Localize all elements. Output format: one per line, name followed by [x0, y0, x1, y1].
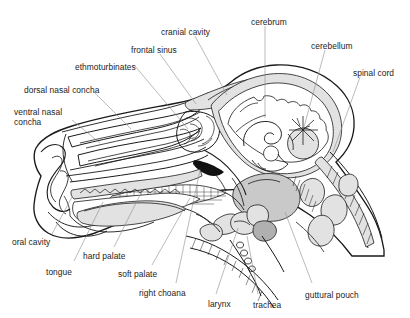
leader-ethmoturbinates [135, 66, 188, 129]
cervical-vertebrae-group [300, 174, 358, 246]
leader-guttural-pouch [285, 212, 312, 283]
trachea-wall-anterior [230, 240, 261, 296]
label-cerebrum: cerebrum [251, 17, 287, 27]
trachea-wall-posterior [262, 236, 284, 272]
label-larynx: larynx [208, 299, 231, 309]
label-guttural-pouch: guttural pouch [305, 290, 359, 300]
ethmoid-scroll-3 [202, 116, 214, 144]
label-frontal-sinus: frontal sinus [131, 45, 177, 55]
label-cranial-cavity: cranial cavity [161, 27, 210, 37]
label-cerebellum: cerebellum [311, 41, 352, 51]
label-right-choana: right choana [139, 288, 186, 298]
label-soft-palate: soft palate [118, 269, 157, 279]
leader-frontal-sinus [160, 54, 196, 104]
leader-trachea [247, 236, 258, 294]
label-ventral-nasal-concha: ventral nasal concha [14, 107, 76, 127]
label-ethmoturbinates: ethmoturbinates [75, 62, 136, 72]
label-dorsal-nasal-concha: dorsal nasal concha [24, 85, 99, 95]
tongue-root [186, 209, 210, 223]
tracheal-rings [236, 242, 255, 272]
nostril-inner-fold [51, 156, 63, 202]
label-hard-palate: hard palate [83, 251, 125, 261]
vertebra-c3 [308, 215, 334, 246]
nasal-septum-base [66, 147, 206, 176]
atlas-vertebra [300, 178, 325, 206]
leader-cranial-cavity [195, 36, 227, 95]
hyoid-apparatus [200, 224, 222, 241]
figure-canvas: cranial cavitycerebrumcerebellumspinal c… [0, 0, 410, 318]
label-trachea: trachea [253, 300, 281, 310]
vertebra-c4 [339, 174, 358, 196]
label-spinal-cord: spinal cord [353, 68, 394, 78]
thalamus-circle [264, 146, 279, 161]
label-oral-cavity: oral cavity [12, 237, 50, 247]
cricoid-cartilage [253, 221, 276, 241]
nasal-alar-fold [59, 171, 68, 214]
label-tongue: tongue [46, 267, 72, 277]
ventral-neck-band-inner [190, 248, 274, 308]
